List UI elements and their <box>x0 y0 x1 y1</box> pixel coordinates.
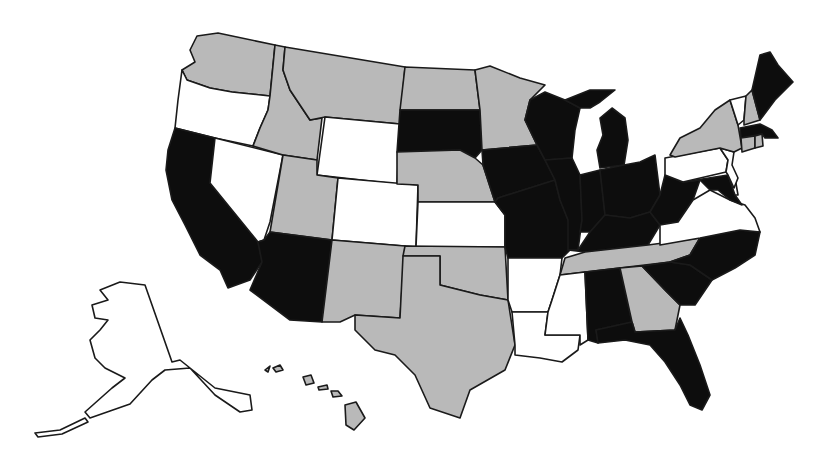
state-HI-oahu[interactable] <box>303 375 314 385</box>
state-HI-molokai[interactable] <box>318 385 328 390</box>
state-ND[interactable] <box>400 67 480 110</box>
state-CO[interactable] <box>332 178 418 247</box>
state-NM[interactable] <box>322 240 405 322</box>
state-NY[interactable] <box>670 100 742 157</box>
state-ME[interactable] <box>752 52 793 120</box>
state-AK[interactable] <box>85 282 252 418</box>
state-KS[interactable] <box>416 202 505 247</box>
state-HI-maui[interactable] <box>331 391 342 397</box>
state-WY[interactable] <box>317 117 400 184</box>
state-FL[interactable] <box>596 318 710 410</box>
state-AZ[interactable] <box>250 232 332 322</box>
state-HI-niihau[interactable] <box>265 366 270 372</box>
state-CT[interactable] <box>741 136 755 152</box>
state-HI-kauai[interactable] <box>273 365 283 372</box>
state-RI[interactable] <box>755 134 763 148</box>
state-AK-aleutians[interactable] <box>35 418 88 437</box>
state-HI-hawaii[interactable] <box>345 402 365 430</box>
us-choropleth-map <box>0 0 830 465</box>
